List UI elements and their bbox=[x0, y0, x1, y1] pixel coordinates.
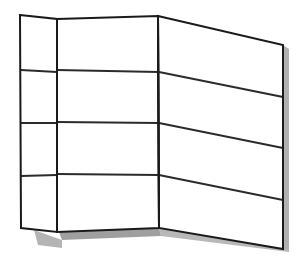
center-panel-slat-3 bbox=[57, 174, 159, 175]
right-panel-face bbox=[158, 16, 283, 249]
center-panel-face bbox=[57, 16, 159, 232]
figure-canvas bbox=[0, 0, 301, 263]
center-panel-slat-2 bbox=[57, 122, 159, 123]
hinge-center-right-line bbox=[158, 16, 159, 228]
folding-screen-illustration bbox=[0, 0, 301, 263]
panel-faces-group bbox=[20, 15, 283, 249]
left-panel-slat-3 bbox=[21, 175, 57, 176]
